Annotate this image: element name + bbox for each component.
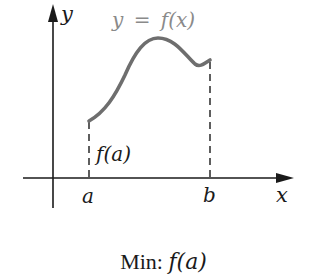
y-axis-arrow-icon: [48, 4, 58, 22]
caption-prefix: Min:: [120, 249, 168, 274]
value-label: f(a): [96, 142, 131, 166]
x-axis-arrow-icon: [276, 173, 294, 183]
point-a-label: a: [82, 184, 94, 208]
y-axis-label: y: [61, 2, 73, 26]
curve-label: y = f(x): [112, 8, 195, 32]
x-axis-label: x: [276, 183, 288, 207]
x-axis: [23, 173, 294, 183]
function-curve: [89, 38, 210, 121]
point-b-label: b: [203, 183, 216, 207]
caption: Min: f(a): [0, 223, 316, 275]
caption-value: f(a): [168, 249, 206, 274]
